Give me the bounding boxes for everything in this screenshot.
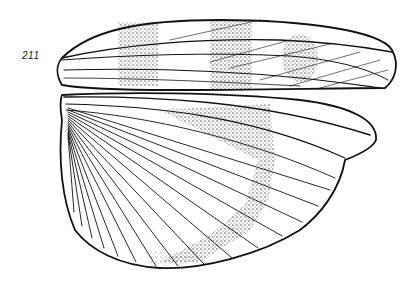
forewing [58,20,396,90]
hindwing [61,93,377,268]
wing-illustration [0,0,418,293]
